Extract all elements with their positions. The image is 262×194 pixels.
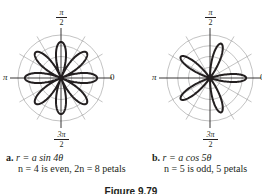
origin-dot: [208, 76, 212, 80]
caption-b: b. r = a cos 5θ n = 5 is odd, 5 petals: [152, 152, 247, 174]
label-pi: π: [3, 73, 8, 82]
caption-a: a. r = a sin 4θ n = 4 is even, 2n = 8 pe…: [6, 152, 126, 174]
caption-equation: r = a cos 5θ: [163, 152, 212, 163]
caption-note: n = 4 is even, 2n = 8 petals: [6, 163, 126, 174]
label-pi-over-2: π 2: [56, 9, 67, 27]
label-zero: 0: [260, 73, 262, 82]
caption-letter: a.: [6, 152, 14, 163]
label-pi: π: [152, 73, 157, 82]
caption-note: n = 5 is odd, 5 petals: [152, 163, 247, 174]
origin-dot: [59, 76, 63, 80]
figure-caption: Figure 9.79: [0, 186, 262, 194]
label-3pi-over-2: 3π 2: [203, 131, 218, 149]
label-3pi-over-2: 3π 2: [54, 131, 69, 149]
caption-equation: r = a sin 4θ: [16, 152, 63, 163]
label-zero: 0: [110, 73, 115, 82]
caption-letter: b.: [152, 152, 160, 163]
label-pi-over-2: π 2: [205, 9, 216, 27]
